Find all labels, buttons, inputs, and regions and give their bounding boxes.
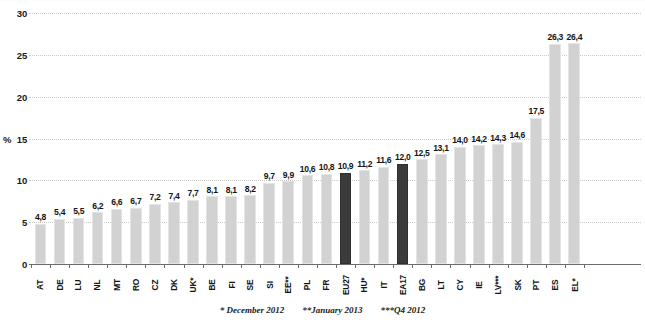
bar-slot[interactable]: 6,7 — [126, 13, 145, 264]
bar-slot[interactable]: 9,7 — [260, 13, 279, 264]
x-tick-label-text: DK — [169, 279, 179, 291]
x-tick-label-text: UK* — [188, 278, 198, 293]
x-tick-label-text: CZ — [150, 280, 160, 291]
bar[interactable] — [35, 224, 47, 264]
bar[interactable] — [530, 118, 542, 264]
bar-slot[interactable]: 5,5 — [69, 13, 88, 264]
unemployment-rate-bar-chart: 051015202530% 4,85,45,56,26,66,77,27,47,… — [0, 0, 645, 326]
x-tick-label-text: NL — [93, 280, 103, 291]
bar-slot[interactable]: 11,2 — [355, 13, 374, 264]
bar-slot[interactable]: 8,2 — [241, 13, 260, 264]
y-axis-unit-label: % — [3, 133, 11, 144]
bar-slot[interactable]: 6,2 — [88, 13, 107, 264]
x-tick-label: LT — [431, 266, 450, 290]
bar[interactable] — [568, 43, 580, 264]
x-tick-label: EE** — [279, 266, 298, 290]
bar[interactable] — [397, 164, 409, 264]
x-tick-label-text: AT — [36, 280, 46, 290]
footnote-1: * December 2012 — [220, 305, 284, 315]
bar[interactable] — [282, 181, 294, 264]
x-tick-label: IT — [374, 266, 393, 290]
x-tick-label-text: MT — [112, 279, 122, 291]
bar[interactable] — [111, 209, 123, 264]
x-tick-label-text: EU27 — [341, 275, 351, 295]
x-tick-label: FR — [317, 266, 336, 290]
x-tick-label: UK* — [184, 266, 203, 290]
x-tick-label-text: DE — [55, 279, 65, 290]
bar[interactable] — [302, 175, 314, 264]
bar-slot[interactable]: 26,4 — [565, 13, 584, 264]
y-tick-label: 30 — [3, 8, 27, 19]
x-tick-label: PL — [298, 266, 317, 290]
bar-slot[interactable]: 10,6 — [298, 13, 317, 264]
x-tick-label: DK — [164, 266, 183, 290]
bar-slot[interactable]: 8,1 — [203, 13, 222, 264]
x-axis-labels: ATDELUNLMTROCZDKUK*BEFISESIEE**PLFREU27H… — [29, 266, 641, 306]
x-tick-label: SI — [260, 266, 279, 290]
bar[interactable] — [168, 202, 180, 264]
bar[interactable] — [73, 218, 85, 264]
x-tick-label-text: BG — [417, 279, 427, 291]
bar-slot[interactable]: 12,0 — [393, 13, 412, 264]
bar-slot[interactable]: 10,9 — [336, 13, 355, 264]
x-tick-label-text: CY — [455, 279, 465, 290]
bar[interactable] — [359, 170, 371, 264]
bar[interactable] — [263, 183, 275, 264]
x-tick-label: IE — [470, 266, 489, 290]
x-tick-label-text: RO — [131, 279, 141, 291]
bar-slot[interactable]: 26,3 — [546, 13, 565, 264]
bar[interactable] — [378, 167, 390, 264]
bar[interactable] — [92, 212, 104, 264]
x-tick-label: CY — [450, 266, 469, 290]
x-tick-label-text: LT — [436, 280, 446, 289]
x-tick-label-text: LU — [74, 280, 84, 291]
bar[interactable] — [54, 219, 66, 264]
x-tick-label: PT — [527, 266, 546, 290]
x-tick-label: DE — [50, 266, 69, 290]
bar-slot[interactable]: 6,6 — [107, 13, 126, 264]
bar-slot[interactable]: 8,1 — [222, 13, 241, 264]
bar-slot[interactable]: 7,7 — [184, 13, 203, 264]
bar[interactable] — [492, 144, 504, 264]
bar-slot[interactable]: 5,4 — [50, 13, 69, 264]
x-tick-label-text: SE — [245, 280, 255, 291]
bar[interactable] — [244, 195, 256, 264]
bar[interactable] — [511, 142, 523, 264]
bar[interactable] — [473, 145, 485, 264]
bar-slot[interactable]: 12,5 — [412, 13, 431, 264]
bar[interactable] — [149, 204, 161, 264]
bar-slot[interactable]: 11,6 — [374, 13, 393, 264]
x-tick-label: HU* — [355, 266, 374, 290]
footnote-row: * December 2012**January 2013***Q4 2012 — [0, 305, 645, 315]
bar[interactable] — [549, 44, 561, 264]
x-tick-label: SK — [508, 266, 527, 290]
bar-slot[interactable]: 4,8 — [31, 13, 50, 264]
x-tick-label-text: EL* — [569, 278, 579, 291]
y-tick-label: 10 — [3, 175, 27, 186]
bar[interactable] — [435, 154, 447, 264]
y-tick-label: 0 — [3, 259, 27, 270]
bar[interactable] — [206, 196, 218, 264]
bar-slot[interactable]: 7,4 — [164, 13, 183, 264]
x-tick-label-text: BE — [207, 279, 217, 290]
bar-slot[interactable]: 14,6 — [508, 13, 527, 264]
bar-slot[interactable]: 10,8 — [317, 13, 336, 264]
x-tick-label-text: PL — [302, 280, 312, 290]
bar[interactable] — [340, 173, 352, 264]
bar-slot[interactable]: 7,2 — [145, 13, 164, 264]
footnote-3: ***Q4 2012 — [381, 305, 426, 315]
bar[interactable] — [225, 196, 237, 264]
x-tick-label: RO — [126, 266, 145, 290]
bar[interactable] — [130, 208, 142, 264]
bar[interactable] — [454, 147, 466, 264]
x-tick-label: EA17 — [393, 266, 412, 290]
bars-group: 4,85,45,56,26,66,77,27,47,78,18,18,29,79… — [29, 13, 641, 264]
bar[interactable] — [187, 200, 199, 264]
bar[interactable] — [321, 174, 333, 264]
bar-slot[interactable]: 17,5 — [527, 13, 546, 264]
y-axis: 051015202530% — [0, 0, 27, 326]
bar[interactable] — [416, 159, 428, 264]
x-tick-label: BE — [203, 266, 222, 290]
x-tick-label: BG — [412, 266, 431, 290]
bar-slot[interactable]: 9,9 — [279, 13, 298, 264]
